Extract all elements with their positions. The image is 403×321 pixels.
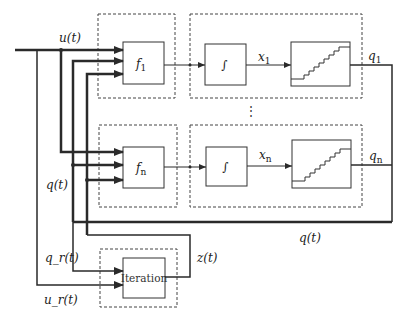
junction-dot-q bbox=[71, 163, 75, 167]
ref-input-line-ur bbox=[37, 50, 123, 285]
integrator-symbol-1: ∫ bbox=[221, 58, 228, 72]
state-label-xn: xn bbox=[259, 148, 272, 164]
ref-state-label-qr: q_r(t) bbox=[45, 251, 79, 265]
vertical-ellipsis: ⋮ bbox=[245, 104, 257, 118]
feedback-label-q-bottom: q(t) bbox=[299, 231, 321, 245]
ref-input-label-ur: u_r(t) bbox=[44, 293, 78, 307]
state-label-x1: x1 bbox=[258, 50, 271, 66]
feedback-label-q-left: q(t) bbox=[46, 178, 68, 192]
output-label-q1: q1 bbox=[368, 49, 381, 65]
junction-dot-z bbox=[85, 178, 89, 182]
input-branch-u-to-fn bbox=[61, 50, 123, 152]
output-label-qn: qn bbox=[369, 149, 383, 165]
iteration-label: Iteration bbox=[121, 272, 168, 284]
output-line-q1 bbox=[350, 65, 392, 222]
block-diagram: f1 ∫ x1 q1 ⋮ fn ∫ xn qn Iteration u(t) q… bbox=[0, 0, 403, 321]
junction-dot bbox=[189, 166, 192, 169]
integrator-symbol-n: ∫ bbox=[222, 160, 229, 174]
iteration-output-label-z: z(t) bbox=[196, 251, 218, 265]
input-label-u: u(t) bbox=[59, 31, 81, 45]
ref-state-line-qr bbox=[73, 222, 123, 271]
junction-dot bbox=[189, 64, 192, 67]
